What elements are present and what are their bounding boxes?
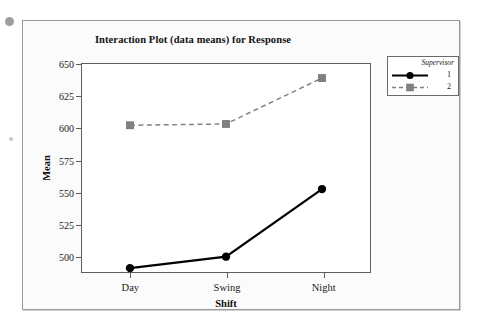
- legend-label-series-2: 2: [447, 82, 451, 91]
- legend-key-series-2: [391, 81, 429, 94]
- chart-title: Interaction Plot (data means) for Respon…: [23, 34, 363, 45]
- data-point-1-Swing: [222, 253, 230, 261]
- x-tick-mark: [227, 272, 228, 278]
- y-tick-label: 500: [59, 252, 74, 263]
- legend-title: Supervisor: [422, 58, 455, 67]
- series-1: [126, 185, 326, 272]
- y-tick-label: 650: [59, 59, 74, 70]
- y-tick-label: 525: [59, 220, 74, 231]
- legend-label-series-1: 1: [447, 70, 451, 79]
- series-overlay: [82, 64, 370, 272]
- x-tick-label: Night: [312, 282, 336, 293]
- data-point-1-Day: [126, 264, 134, 272]
- series-line-2: [130, 78, 322, 125]
- x-tick-label: Swing: [214, 282, 241, 293]
- y-tick-label: 600: [59, 123, 74, 134]
- x-tick-mark: [324, 272, 325, 278]
- page-speck-icon: [5, 17, 14, 26]
- page-speck-secondary-icon: [9, 137, 13, 141]
- data-point-2-Swing: [222, 120, 230, 128]
- y-tick-label: 550: [59, 187, 74, 198]
- data-point-2-Day: [126, 121, 134, 129]
- x-tick-label: Day: [122, 282, 140, 293]
- data-point-2-Night: [318, 74, 326, 82]
- graph-window-panel: Interaction Plot (data means) for Respon…: [22, 20, 460, 310]
- y-tick-label: 625: [59, 91, 74, 102]
- y-axis-title: Mean: [41, 155, 52, 181]
- data-point-1-Night: [318, 185, 326, 193]
- legend[interactable]: Supervisor 1 2: [387, 56, 459, 96]
- legend-item-2[interactable]: 2: [388, 81, 458, 94]
- series-2: [126, 74, 326, 129]
- plot-area: Mean Shift 650625600575550525500 DaySwin…: [81, 63, 371, 273]
- x-tick-mark: [130, 272, 131, 278]
- x-axis-title: Shift: [215, 298, 237, 309]
- y-tick-label: 575: [59, 155, 74, 166]
